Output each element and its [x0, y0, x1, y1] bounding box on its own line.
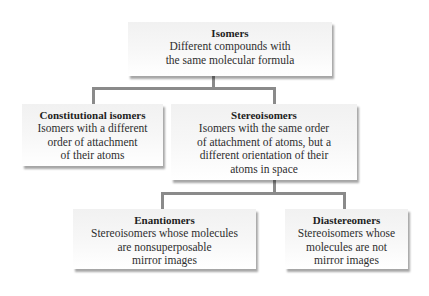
node-diastereomers: Diastereomers Stereoisomers whose molecu…: [285, 209, 408, 269]
node-isomers: Isomers Different compounds with the sam…: [128, 22, 332, 76]
node-desc-line: mirror images: [285, 254, 408, 268]
node-desc-line: of attachment of atoms, but a: [171, 136, 357, 150]
connector-to-stereoisomers: [273, 87, 276, 104]
node-title: Enantiomers: [73, 213, 256, 227]
node-desc-line: different orientation of their: [171, 149, 357, 163]
node-desc-line: mirror images: [73, 254, 256, 268]
node-desc-line: of their atoms: [22, 149, 163, 163]
node-title: Diastereomers: [285, 213, 408, 227]
node-desc-line: are nonsuperposable: [73, 241, 256, 255]
node-desc-line: Isomers with a different: [22, 122, 163, 136]
node-desc-line: order of attachment: [22, 136, 163, 150]
node-constitutional-isomers: Constitutional isomers Isomers with a di…: [22, 104, 163, 166]
node-stereoisomers: Stereoisomers Isomers with the same orde…: [171, 104, 357, 180]
node-desc-line: atoms in space: [171, 163, 357, 177]
connector-to-enantiomers: [161, 192, 164, 209]
node-desc-line: Stereoisomers whose: [285, 227, 408, 241]
node-desc-line: Stereoisomers whose molecules: [73, 227, 256, 241]
node-enantiomers: Enantiomers Stereoisomers whose molecule…: [73, 209, 256, 269]
node-desc-line: Isomers with the same order: [171, 122, 357, 136]
node-title: Stereoisomers: [171, 108, 357, 122]
node-desc-line: the same molecular formula: [128, 54, 332, 68]
connector-to-diastereomers: [343, 192, 346, 209]
connector-level1-horizontal: [92, 87, 276, 90]
node-title: Isomers: [128, 26, 332, 40]
connector-to-constitutional: [92, 87, 95, 104]
node-desc-line: molecules are not: [285, 241, 408, 255]
node-desc-line: Different compounds with: [128, 40, 332, 54]
node-title: Constitutional isomers: [22, 108, 163, 122]
connector-level2-horizontal: [161, 192, 346, 195]
